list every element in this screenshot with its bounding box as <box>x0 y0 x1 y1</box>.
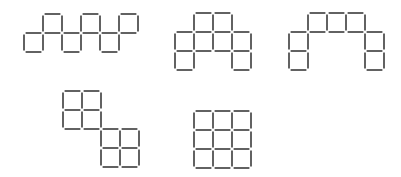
figure-5-3x3-grid <box>194 111 251 168</box>
figure-4-staggered-blocks <box>63 91 139 167</box>
matchstick-diagram <box>0 0 401 177</box>
figure-3-arch <box>289 13 384 70</box>
figure-2-arch-block <box>175 13 251 70</box>
figure-1-zigzag <box>24 14 138 52</box>
